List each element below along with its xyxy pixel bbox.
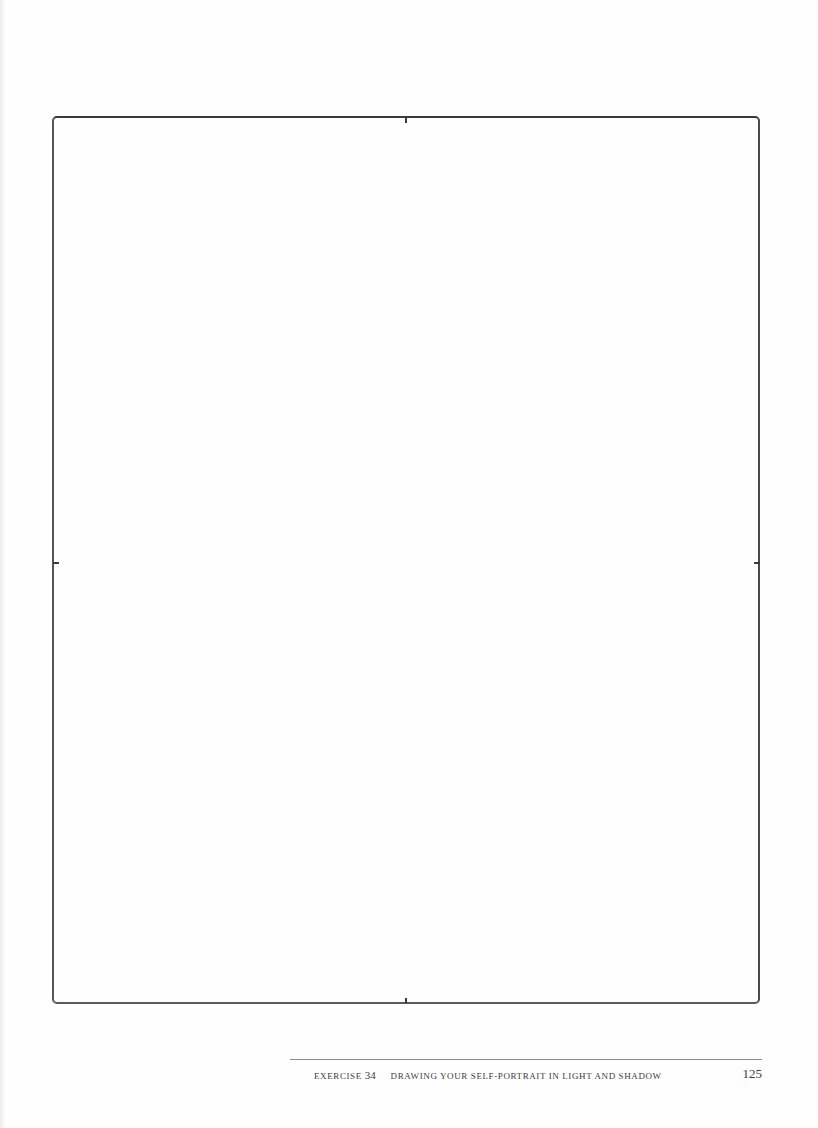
drawing-frame [52, 116, 760, 1004]
exercise-word: EXERCISE [314, 1071, 362, 1081]
top-center-tick-mark [405, 117, 407, 123]
footer-rule [290, 1059, 762, 1060]
running-footer: EXERCISE 34 DRAWING YOUR SELF-PORTRAIT I… [314, 1069, 662, 1081]
exercise-number: 34 [365, 1069, 376, 1081]
page-gutter-shadow [0, 0, 6, 1128]
left-center-tick-mark [53, 562, 59, 564]
exercise-label: EXERCISE 34 [314, 1071, 376, 1081]
page-number: 125 [743, 1066, 763, 1082]
right-center-tick-mark [754, 562, 760, 564]
book-page: EXERCISE 34 DRAWING YOUR SELF-PORTRAIT I… [0, 0, 818, 1128]
chapter-title: DRAWING YOUR SELF-PORTRAIT IN LIGHT AND … [391, 1071, 662, 1081]
bottom-center-tick-mark [405, 998, 407, 1003]
